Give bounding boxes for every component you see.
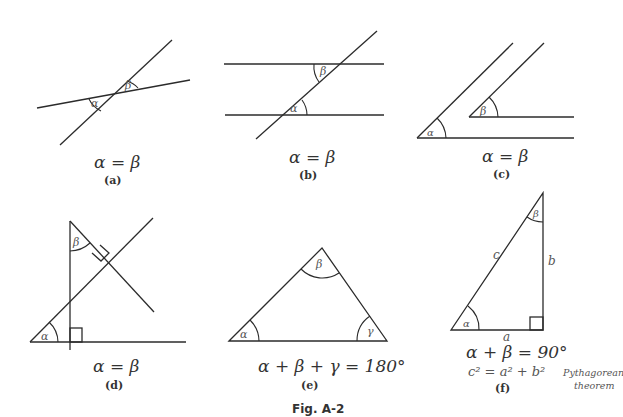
angle-label-alpha: α bbox=[427, 127, 434, 138]
triangle-e bbox=[229, 248, 387, 341]
angle-label-alpha: α bbox=[41, 330, 49, 343]
side-label-b: b bbox=[548, 254, 556, 268]
panel-label-d: (d) bbox=[105, 379, 123, 392]
angle-label-beta: β bbox=[532, 208, 539, 219]
angle-arc-alpha bbox=[302, 100, 307, 115]
note-theorem: theorem bbox=[574, 380, 614, 391]
right-angle-marker bbox=[530, 317, 543, 330]
panel-label-a: (a) bbox=[104, 174, 122, 187]
panel-label-c: (c) bbox=[493, 168, 510, 181]
equation-d: α = β bbox=[93, 356, 140, 376]
equation-e: α + β + γ = 180° bbox=[258, 356, 406, 376]
equation-f-pythagorean: c² = a² + b² bbox=[468, 364, 545, 379]
angle-arc-alpha bbox=[437, 118, 446, 138]
angle-arc-beta bbox=[314, 64, 319, 82]
note-pythagorean: Pythagorean bbox=[562, 367, 623, 378]
line-a2 bbox=[60, 40, 172, 145]
panel-c: α β α = β (c) bbox=[417, 43, 574, 181]
geometry-figure: α β α = β (a) β α α = β (b) α β α = β (c… bbox=[0, 0, 623, 417]
angle-label-beta: β bbox=[72, 236, 79, 249]
panel-f: α β c b a α + β = 90° c² = a² + b² Pytha… bbox=[451, 193, 623, 395]
angle-label-alpha: α bbox=[240, 328, 248, 341]
equation-c: α = β bbox=[482, 146, 529, 166]
angle-arc-alpha bbox=[49, 322, 58, 342]
angle-label-alpha: α bbox=[91, 97, 99, 110]
panel-label-b: (b) bbox=[299, 169, 317, 182]
panel-e: α β γ α + β + γ = 180° (e) bbox=[229, 248, 406, 392]
line-c-left bbox=[417, 43, 513, 138]
angle-label-beta: β bbox=[319, 65, 326, 78]
side-label-c: c bbox=[493, 248, 500, 262]
equation-b: α = β bbox=[289, 147, 336, 167]
angle-label-beta: β bbox=[479, 105, 486, 118]
equation-a: α = β bbox=[94, 152, 141, 172]
panel-d: α β α = β (d) bbox=[30, 218, 186, 392]
angle-label-beta: β bbox=[124, 79, 131, 92]
angle-arc-alpha bbox=[250, 320, 259, 341]
equation-f: α + β = 90° bbox=[466, 342, 568, 362]
angle-label-gamma: γ bbox=[367, 325, 374, 338]
line-d-perpendicular bbox=[70, 221, 154, 312]
angle-arc-beta bbox=[489, 97, 498, 117]
panel-a: α β α = β (a) bbox=[37, 40, 190, 187]
angle-label-alpha: α bbox=[463, 318, 470, 329]
transversal-line bbox=[256, 31, 377, 139]
figure-caption: Fig. A-2 bbox=[292, 402, 344, 416]
angle-label-alpha: α bbox=[290, 102, 298, 115]
panel-label-e: (e) bbox=[301, 379, 318, 392]
line-d-diagonal bbox=[30, 218, 153, 342]
panel-b: β α α = β (b) bbox=[224, 31, 384, 182]
panel-label-f: (f) bbox=[495, 382, 510, 395]
right-angle-marker-bottom bbox=[70, 328, 82, 342]
angle-label-beta: β bbox=[315, 258, 322, 271]
